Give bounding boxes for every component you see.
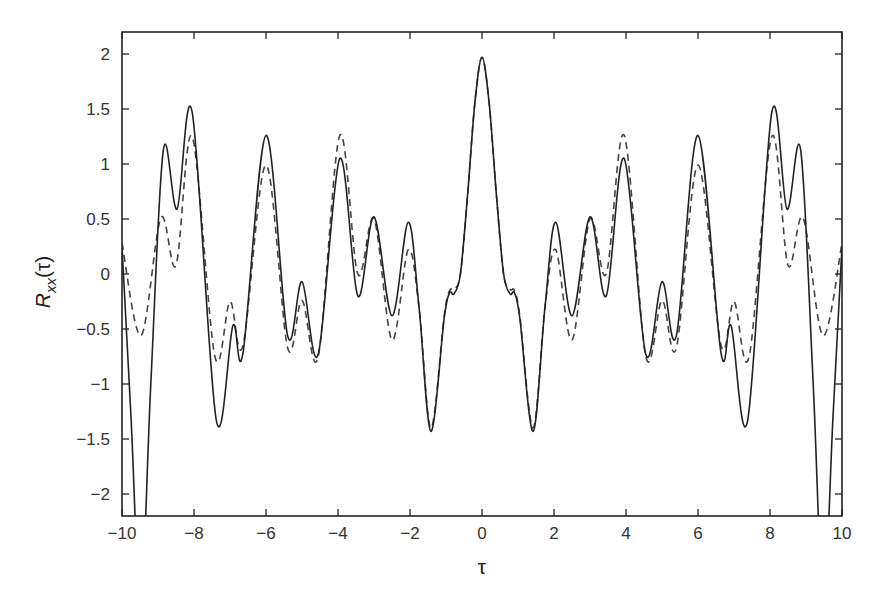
y-axis-label: Rxx(τ) xyxy=(31,256,59,308)
y-tick-label: −1 xyxy=(91,375,110,394)
x-tick-label: 4 xyxy=(621,524,630,543)
y-axis: −2−1.5−1−0.500.511.52 xyxy=(76,45,842,504)
svg-text:Rxx(τ): Rxx(τ) xyxy=(31,256,59,308)
y-tick-label: −2 xyxy=(91,485,110,504)
x-tick-label: 0 xyxy=(477,524,486,543)
plot-frame xyxy=(122,32,842,516)
chart: −10−8−6−4−20246810 −2−1.5−1−0.500.511.52… xyxy=(0,0,881,607)
y-label-sub: xx xyxy=(42,278,59,295)
y-label-main: R xyxy=(31,293,54,308)
x-axis-label: τ xyxy=(478,555,487,578)
x-tick-label: 10 xyxy=(833,524,852,543)
x-tick-label: −2 xyxy=(400,524,419,543)
x-tick-label: −6 xyxy=(256,524,275,543)
solid-series-line xyxy=(122,57,842,604)
y-tick-label: 2 xyxy=(101,45,110,64)
dashed-series-line xyxy=(122,57,842,428)
x-axis: −10−8−6−4−20246810 xyxy=(108,32,852,543)
x-tick-label: −4 xyxy=(328,524,347,543)
x-tick-label: −10 xyxy=(108,524,137,543)
x-tick-label: 8 xyxy=(765,524,774,543)
y-tick-label: 0.5 xyxy=(86,210,110,229)
y-tick-label: 1.5 xyxy=(86,100,110,119)
x-tick-label: −8 xyxy=(184,524,203,543)
y-tick-label: −0.5 xyxy=(76,320,110,339)
plot-area xyxy=(122,57,842,604)
x-tick-label: 6 xyxy=(693,524,702,543)
y-label-arg: (τ) xyxy=(31,256,54,278)
x-tick-label: 2 xyxy=(549,524,558,543)
y-tick-label: 0 xyxy=(101,265,110,284)
y-tick-label: 1 xyxy=(101,155,110,174)
y-tick-label: −1.5 xyxy=(76,430,110,449)
